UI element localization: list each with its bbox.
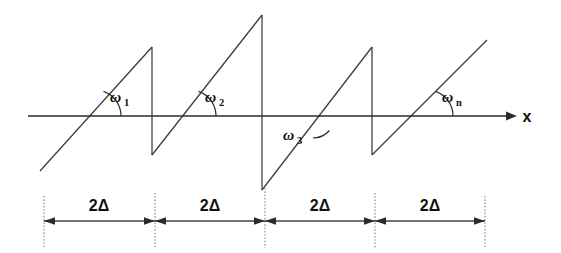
- dimension-label-3: 2Δ: [310, 197, 330, 214]
- angle-symbol-w2: ω: [205, 88, 216, 105]
- dimension-label-1: 2Δ: [89, 197, 109, 214]
- angle-symbol-w1: ω: [110, 88, 121, 105]
- dimension-label-2: 2Δ: [200, 197, 220, 214]
- canvas-background: [0, 0, 561, 253]
- angle-subscript-w3: 3: [297, 135, 302, 146]
- sawtooth-diagram-canvas: x ω 1 ω 2 ω 3: [0, 0, 561, 253]
- x-axis-label: x: [523, 108, 532, 125]
- angle-subscript-w1: 1: [124, 97, 129, 108]
- angle-subscript-wn: n: [456, 97, 462, 108]
- dimension-label-4: 2Δ: [420, 197, 440, 214]
- figure-root: x ω 1 ω 2 ω 3: [0, 0, 561, 253]
- angle-symbol-w3: ω: [283, 126, 294, 143]
- angle-subscript-w2: 2: [219, 97, 224, 108]
- angle-symbol-wn: ω: [442, 88, 453, 105]
